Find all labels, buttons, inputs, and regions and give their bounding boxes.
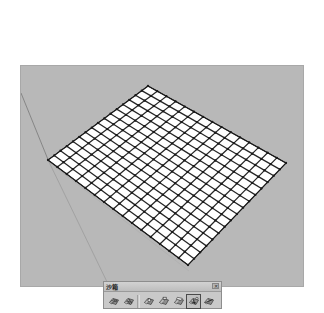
mesh-vertex bbox=[125, 114, 127, 116]
mesh-vertex bbox=[202, 201, 204, 203]
mesh-vertex bbox=[109, 139, 111, 141]
palette-titlebar[interactable]: 沙箱 ✕ bbox=[104, 282, 221, 292]
mesh-vertex bbox=[112, 178, 114, 180]
mesh-vertex bbox=[156, 142, 158, 144]
mesh-vertex bbox=[193, 194, 195, 196]
mesh-vertex bbox=[199, 159, 201, 161]
mesh-vertex bbox=[254, 164, 256, 166]
mesh-vertex bbox=[84, 158, 86, 160]
mesh-vertex bbox=[202, 116, 204, 118]
3d-modeling-viewport[interactable] bbox=[21, 66, 303, 286]
mesh-vertex bbox=[112, 123, 114, 125]
mesh-vertex bbox=[106, 128, 108, 130]
mesh-vertex bbox=[227, 177, 229, 179]
mesh-vertex bbox=[214, 159, 216, 161]
mesh-vertex bbox=[174, 126, 176, 128]
flip-edge-tool[interactable] bbox=[201, 294, 216, 309]
mesh-vertex bbox=[106, 183, 108, 185]
mesh-vertex bbox=[143, 125, 145, 127]
stamp-tool[interactable] bbox=[156, 294, 171, 309]
mesh-vertex bbox=[72, 140, 74, 142]
mesh-vertex bbox=[94, 194, 96, 196]
mesh-vertex bbox=[190, 213, 192, 215]
mesh-vertex bbox=[78, 136, 80, 138]
mesh-vertex bbox=[183, 132, 185, 134]
mesh-vertex bbox=[217, 201, 219, 203]
add-detail-tool[interactable] bbox=[186, 294, 201, 309]
mesh-vertex bbox=[236, 153, 238, 155]
drape-tool[interactable] bbox=[171, 294, 186, 309]
mesh-vertex bbox=[149, 175, 151, 177]
mesh-vertex bbox=[128, 124, 130, 126]
mesh-vertex bbox=[180, 238, 182, 240]
mesh-vertex bbox=[69, 156, 71, 158]
mesh-vertex bbox=[248, 141, 250, 143]
mesh-vertex bbox=[190, 183, 192, 185]
smoove-tool[interactable] bbox=[141, 294, 156, 309]
mesh-vertex bbox=[146, 164, 148, 166]
mesh-vertex bbox=[84, 187, 86, 189]
mesh-vertex bbox=[109, 113, 111, 115]
mesh-vertex bbox=[162, 224, 164, 226]
mesh-vertex bbox=[177, 137, 179, 139]
mesh-vertex bbox=[180, 148, 182, 150]
mesh-vertex bbox=[162, 164, 164, 166]
mesh-vertex bbox=[193, 137, 195, 139]
mesh-vertex bbox=[273, 175, 275, 177]
mesh-vertex bbox=[97, 149, 99, 151]
sandbox-toolbar[interactable]: 沙箱 ✕ bbox=[103, 281, 222, 309]
mesh-vertex bbox=[242, 176, 244, 178]
mesh-vertex bbox=[162, 110, 164, 112]
mesh-vertex bbox=[115, 161, 117, 163]
mesh-vertex bbox=[224, 226, 226, 228]
mesh-vertex bbox=[53, 154, 55, 156]
mesh-vertex bbox=[251, 182, 253, 184]
mesh-vertex bbox=[248, 200, 250, 202]
mesh-vertex bbox=[115, 134, 117, 136]
mesh-vertex bbox=[211, 207, 213, 209]
mesh-vertex bbox=[165, 121, 167, 123]
mesh-vertex bbox=[183, 188, 185, 190]
mesh-vertex bbox=[159, 153, 161, 155]
mesh-vertex bbox=[75, 152, 77, 154]
mesh-vertex bbox=[146, 223, 148, 225]
mesh-vertex bbox=[128, 151, 130, 153]
mesh-vertex bbox=[227, 207, 229, 209]
mesh-vertex bbox=[174, 244, 176, 246]
mesh-vertex bbox=[196, 121, 198, 123]
mesh-vertex bbox=[131, 135, 133, 137]
mesh-vertex bbox=[149, 205, 151, 207]
mesh-vertex bbox=[153, 131, 155, 133]
mesh-vertex bbox=[263, 169, 265, 171]
mesh-vertex bbox=[165, 148, 167, 150]
mesh-vertex bbox=[168, 159, 170, 161]
mesh-vertex bbox=[47, 159, 49, 161]
mesh-vertex bbox=[174, 182, 176, 184]
mesh-vertex bbox=[90, 182, 92, 184]
mesh-vertex bbox=[103, 117, 105, 119]
mesh-vertex bbox=[245, 159, 247, 161]
from-scratch-tool[interactable] bbox=[121, 294, 136, 309]
mesh-vertex bbox=[131, 109, 133, 111]
mesh-vertex bbox=[122, 215, 124, 217]
mesh-vertex bbox=[152, 158, 154, 160]
mesh-vertex bbox=[171, 231, 173, 233]
mesh-vertex bbox=[174, 212, 176, 214]
mesh-vertex bbox=[137, 130, 139, 132]
mesh-vertex bbox=[62, 161, 64, 163]
mesh-vertex bbox=[147, 110, 149, 112]
mesh-vertex bbox=[97, 177, 99, 179]
mesh-vertex bbox=[121, 185, 123, 187]
mesh-vertex bbox=[211, 177, 213, 179]
mesh-vertex bbox=[159, 126, 161, 128]
mesh-vertex bbox=[208, 165, 210, 167]
mesh-vertex bbox=[183, 159, 185, 161]
mesh-vertex bbox=[156, 90, 158, 92]
mesh-vertex bbox=[220, 154, 222, 156]
mesh-vertex bbox=[242, 206, 244, 208]
mesh-vertex bbox=[134, 119, 136, 121]
mesh-vertex bbox=[150, 120, 152, 122]
close-icon[interactable]: ✕ bbox=[212, 283, 219, 289]
from-contours-tool[interactable] bbox=[106, 294, 121, 309]
mesh-vertex bbox=[121, 156, 123, 158]
